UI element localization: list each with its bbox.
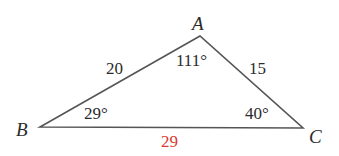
angle-b-measure: 29° xyxy=(84,105,108,122)
vertex-c-label: C xyxy=(309,127,322,146)
side-ac-length: 15 xyxy=(249,60,266,77)
side-bc-length: 29 xyxy=(161,133,178,150)
angle-c-measure: 40° xyxy=(245,105,269,122)
angle-a-measure: 111° xyxy=(176,52,207,69)
side-ab-length: 20 xyxy=(106,60,123,77)
vertex-b-label: B xyxy=(16,120,28,139)
vertex-a-label: A xyxy=(192,14,204,33)
